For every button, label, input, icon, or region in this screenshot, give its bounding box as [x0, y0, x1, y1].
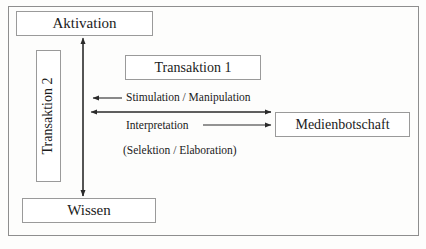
- diagram-canvas: Aktivation Transaktion 2 Transaktion 1 M…: [0, 0, 426, 249]
- caption-selektion: (Selektion / Elaboration): [123, 145, 237, 157]
- node-medienbotschaft-label: Medienbotschaft: [295, 118, 389, 132]
- node-aktivation-label: Aktivation: [52, 16, 116, 31]
- caption-interpretation: Interpretation: [126, 120, 189, 132]
- node-wissen-label: Wissen: [67, 203, 111, 218]
- caption-stimulation: Stimulation / Manipulation: [126, 92, 251, 104]
- node-wissen[interactable]: Wissen: [22, 198, 156, 223]
- node-transaktion2-label: Transaktion 2: [42, 78, 56, 155]
- node-medienbotschaft[interactable]: Medienbotschaft: [275, 112, 410, 137]
- node-transaktion1[interactable]: Transaktion 1: [125, 55, 261, 80]
- node-aktivation[interactable]: Aktivation: [16, 11, 153, 36]
- node-transaktion2[interactable]: Transaktion 2: [36, 50, 61, 182]
- node-transaktion1-label: Transaktion 1: [155, 61, 232, 75]
